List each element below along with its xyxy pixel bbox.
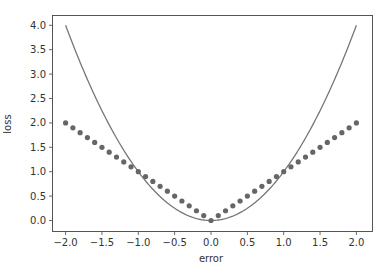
data-point [114, 154, 119, 159]
y-axis: 0.00.51.01.52.02.53.03.54.0 [30, 20, 52, 226]
data-point [252, 189, 257, 194]
chart-canvas: −2.0−1.5−1.0−0.50.00.51.01.52.0 0.00.51.… [0, 0, 387, 269]
data-point [165, 189, 170, 194]
data-point [63, 120, 68, 125]
data-point [332, 135, 337, 140]
y-tick-label: 2.0 [30, 117, 46, 128]
data-point [208, 218, 213, 223]
x-axis: −2.0−1.5−1.0−0.50.00.51.01.52.0 [53, 232, 364, 249]
plot-frame [53, 16, 373, 232]
data-point [158, 184, 163, 189]
data-point [172, 194, 177, 199]
data-point [274, 174, 279, 179]
x-tick-label: 1.0 [276, 237, 292, 248]
x-tick-label: 1.5 [312, 237, 328, 248]
x-tick-label: 0.0 [203, 237, 219, 248]
data-point [70, 125, 75, 130]
y-axis-label: loss [2, 114, 13, 133]
data-point [99, 145, 104, 150]
squared-error-curve [66, 25, 357, 220]
data-point [121, 159, 126, 164]
x-tick-label: −2.0 [53, 237, 77, 248]
data-point [281, 169, 286, 174]
plot-series [63, 25, 359, 223]
data-point [78, 130, 83, 135]
data-point [136, 169, 141, 174]
y-tick-label: 4.0 [30, 20, 46, 31]
data-point [201, 213, 206, 218]
x-tick-label: 0.5 [239, 237, 255, 248]
data-point [194, 208, 199, 213]
x-tick-label: 2.0 [348, 237, 364, 248]
y-tick-label: 0.5 [30, 191, 46, 202]
data-point [223, 208, 228, 213]
x-tick-label: −1.5 [90, 237, 114, 248]
data-point [310, 150, 315, 155]
y-tick-label: 1.5 [30, 142, 46, 153]
data-point [267, 179, 272, 184]
data-point [245, 194, 250, 199]
y-tick-label: 3.0 [30, 69, 46, 80]
data-point [325, 140, 330, 145]
data-point [179, 198, 184, 203]
data-point [187, 203, 192, 208]
data-point [303, 154, 308, 159]
y-tick-label: 0.0 [30, 215, 46, 226]
data-point [347, 125, 352, 130]
y-tick-label: 1.0 [30, 166, 46, 177]
data-point [259, 184, 264, 189]
data-point [85, 135, 90, 140]
data-point [107, 150, 112, 155]
data-point [92, 140, 97, 145]
data-point [128, 164, 133, 169]
x-tick-label: −0.5 [163, 237, 187, 248]
data-point [150, 179, 155, 184]
data-point [237, 198, 242, 203]
x-axis-label: error [199, 253, 224, 264]
data-point [216, 213, 221, 218]
data-point [143, 174, 148, 179]
x-tick-label: −1.0 [126, 237, 150, 248]
data-point [230, 203, 235, 208]
data-point [296, 159, 301, 164]
absolute-error-points [63, 120, 359, 223]
y-tick-label: 3.5 [30, 44, 46, 55]
data-point [354, 120, 359, 125]
data-point [317, 145, 322, 150]
y-tick-label: 2.5 [30, 93, 46, 104]
data-point [288, 164, 293, 169]
data-point [339, 130, 344, 135]
